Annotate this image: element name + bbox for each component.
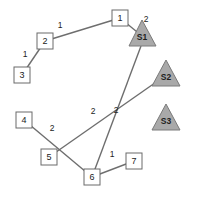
station-s2-label: S2 bbox=[161, 72, 172, 82]
edge-weight-s1-6: 2 bbox=[114, 105, 119, 115]
node-7-label: 7 bbox=[131, 156, 136, 166]
station-s2: S2 bbox=[152, 60, 180, 86]
diagram-svg: 1 1 2 2 2 2 1 1 2 3 4 bbox=[0, 0, 200, 200]
node-7: 7 bbox=[126, 153, 142, 169]
node-6: 6 bbox=[84, 169, 100, 185]
station-s3: S3 bbox=[152, 104, 180, 130]
node-5: 5 bbox=[41, 149, 57, 165]
edge-weight-3-2: 1 bbox=[23, 49, 28, 59]
edge-weight-2-1: 1 bbox=[58, 20, 63, 30]
edge-weight-1-s1: 2 bbox=[144, 14, 149, 24]
node-3: 3 bbox=[14, 67, 30, 83]
edge-weight-s2-5: 2 bbox=[91, 106, 96, 116]
edge-weight-6-7: 1 bbox=[110, 149, 115, 159]
node-2: 2 bbox=[37, 33, 53, 49]
node-4: 4 bbox=[16, 112, 32, 128]
node-6-label: 6 bbox=[89, 172, 94, 182]
network-diagram: 1 1 2 2 2 2 1 1 2 3 4 bbox=[0, 0, 200, 200]
station-s1-label: S1 bbox=[137, 32, 148, 42]
edge-s2-5 bbox=[49, 78, 162, 157]
node-2-label: 2 bbox=[42, 36, 47, 46]
node-1-label: 1 bbox=[117, 13, 122, 23]
station-s3-label: S3 bbox=[161, 116, 172, 126]
edge-2-1 bbox=[45, 18, 120, 41]
node-4-label: 4 bbox=[21, 115, 26, 125]
node-3-label: 3 bbox=[19, 70, 24, 80]
nodes-layer: 1 2 3 4 5 6 7 bbox=[14, 10, 142, 185]
station-s1: S1 bbox=[129, 20, 156, 46]
edge-weight-4-6: 2 bbox=[50, 123, 55, 133]
node-1: 1 bbox=[112, 10, 128, 26]
node-5-label: 5 bbox=[46, 152, 51, 162]
edge-4-6 bbox=[24, 120, 92, 177]
stations-layer: S1 S2 S3 bbox=[129, 20, 180, 130]
